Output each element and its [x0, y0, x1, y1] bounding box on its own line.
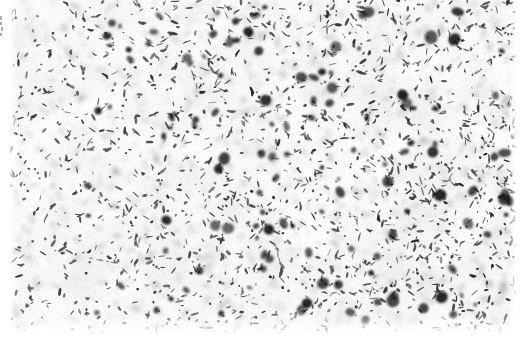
figure-root: [0, 0, 528, 352]
edge-artifact: [15, 9, 16, 15]
edge-artifact: [0, 33, 2, 36]
micrograph-image: [10, 0, 516, 338]
edge-artifact: [0, 22, 2, 25]
paper-margin-right: [516, 0, 528, 352]
edge-artifact: [1, 27, 3, 31]
micrograph-plate: [10, 0, 516, 338]
edge-artifact: [0, 16, 2, 20]
paper-margin-left: [0, 0, 10, 352]
paper-margin-bottom: [0, 338, 528, 352]
